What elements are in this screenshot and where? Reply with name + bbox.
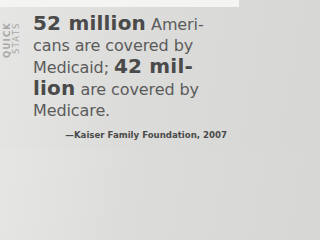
stat-line-4: lion are covered by: [33, 78, 238, 100]
quick-stats-label: QUICK STATS: [3, 0, 21, 58]
medicaid-count: 52 million: [33, 11, 146, 35]
medicare-count-part1: 42 mil-: [114, 54, 193, 78]
stat-text-fragment: Ameri-: [146, 15, 204, 34]
stat-text-fragment: are covered by: [76, 80, 199, 99]
stat-statement: 52 million Ameri- cans are covered by Me…: [33, 13, 238, 121]
stats-label: STATS: [12, 0, 21, 58]
stat-line-3: Medicaid; 42 mil-: [33, 56, 238, 78]
stat-text-fragment: Medicaid;: [33, 58, 114, 77]
top-border-strip: [0, 0, 239, 7]
stat-line-2: cans are covered by: [33, 35, 238, 56]
medicare-count-part2: lion: [33, 76, 76, 100]
stat-line-1: 52 million Ameri-: [33, 13, 238, 35]
source-attribution: —Kaiser Family Foundation, 2007: [65, 130, 227, 140]
stat-line-5: Medicare.: [33, 100, 238, 121]
